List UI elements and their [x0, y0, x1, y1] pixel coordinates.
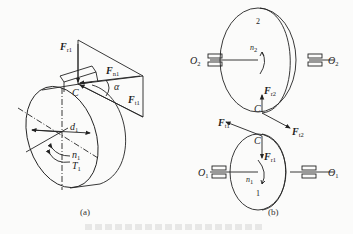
label-O2-right: O2	[328, 56, 338, 68]
gear-force-diagram: Fr1 Fn1 Ft1 α C d1 n1 T1 (a) 2 O2 O2 n2 …	[0, 0, 353, 234]
diagram-lines	[0, 0, 353, 234]
label-C-top: C	[254, 104, 261, 114]
label-O2-left: O2	[190, 56, 200, 68]
label-Ft1-b: Ft1	[218, 118, 230, 130]
caption-a: (a)	[80, 207, 90, 217]
label-O1-right: O1	[328, 168, 338, 180]
caption-b: (b)	[268, 207, 279, 217]
label-O1-left: O1	[198, 168, 208, 180]
bleed-through-text	[85, 224, 265, 230]
label-Fr2: Fr2	[264, 86, 276, 98]
label-gear-1: 1	[256, 190, 260, 198]
label-Fr1-a: Fr1	[60, 42, 72, 54]
label-gear-2: 2	[256, 18, 260, 26]
label-n2: n2	[250, 44, 257, 54]
label-n1-b: n1	[246, 176, 253, 186]
label-d1: d1	[70, 122, 78, 134]
label-alpha: α	[114, 82, 119, 92]
label-C-a: C	[72, 88, 79, 98]
label-Ft1-a: Ft1	[128, 95, 140, 107]
label-C-bottom: C	[254, 136, 261, 146]
label-Ft2: Ft2	[292, 127, 304, 139]
label-Fr1-b: Fr1	[264, 152, 276, 164]
gear-1-rim	[262, 134, 286, 210]
label-Fn1-a: Fn1	[106, 66, 119, 78]
label-T1: T1	[72, 161, 81, 173]
